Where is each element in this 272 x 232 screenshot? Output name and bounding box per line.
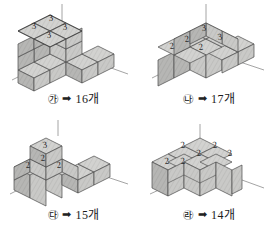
cube-faces <box>152 138 242 196</box>
cube-stack-d-figure: 2 2 2 2 2 2 <box>136 118 271 210</box>
cube-stack-a-figure: 3 3 3 3 <box>0 2 135 94</box>
cube-stack-c-figure: 3 2 2 2 <box>0 118 135 210</box>
figure-grid: 3 3 3 3 ㉮ ➡ 16개 <box>0 0 271 232</box>
cube-stack-a-svg: 3 3 3 3 <box>0 2 135 94</box>
cube-count-b: 17개 <box>211 93 236 105</box>
panel-mark-a: ㉮ <box>48 94 58 105</box>
svg-text:2: 2 <box>180 139 186 150</box>
caption-c: ㉰ ➡ 15개 <box>48 209 100 221</box>
caption-b: ㉯ ➡ 17개 <box>183 93 235 105</box>
arrow-icon: ➡ <box>62 209 71 220</box>
cube-count-c: 15개 <box>75 209 100 221</box>
svg-text:2: 2 <box>212 139 218 150</box>
caption-d: ㉱ ➡ 14개 <box>183 209 235 221</box>
panel-mark-c: ㉰ <box>48 210 58 221</box>
cube-stack-c-svg: 3 2 2 2 <box>0 118 135 210</box>
cube-stack-b-svg: 3 3 2 2 2 <box>136 2 271 94</box>
panel-mark-b: ㉯ <box>183 94 193 105</box>
panel-c: 3 2 2 2 ㉰ ➡ 15개 <box>0 116 136 232</box>
cube-stack-d-svg: 2 2 2 2 2 2 <box>136 118 271 210</box>
cube-faces <box>14 138 110 206</box>
panel-mark-d: ㉱ <box>183 210 193 221</box>
arrow-icon: ➡ <box>198 209 207 220</box>
panel-d: 2 2 2 2 2 2 ㉱ ➡ 14개 <box>136 116 272 232</box>
arrow-icon: ➡ <box>62 93 71 104</box>
cube-count-d: 14개 <box>211 209 236 221</box>
arrow-icon: ➡ <box>198 93 207 104</box>
panel-a: 3 3 3 3 ㉮ ➡ 16개 <box>0 0 136 116</box>
caption-a: ㉮ ➡ 16개 <box>48 93 100 105</box>
panel-b: 3 3 2 2 2 ㉯ ➡ 17개 <box>136 0 272 116</box>
cube-stack-b-figure: 3 3 2 2 2 <box>136 2 271 94</box>
cube-count-a: 16개 <box>75 93 100 105</box>
svg-text:2: 2 <box>227 147 233 158</box>
